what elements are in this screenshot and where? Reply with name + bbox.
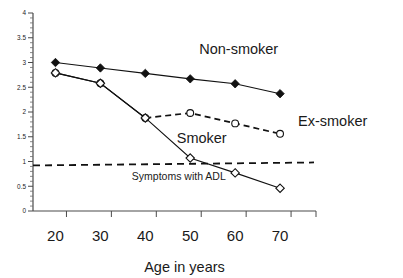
y-tick-label: 3 <box>22 59 26 66</box>
x-tick-label: 70 <box>272 227 289 244</box>
x-tick-label: 40 <box>137 227 154 244</box>
annotation-symptoms-with-adl: Symptoms with ADL <box>132 170 226 182</box>
marker-open-circle <box>187 110 194 117</box>
y-tick-label: 3.5 <box>17 34 26 41</box>
x-tick-label: 60 <box>227 227 244 244</box>
annotation-non-smoker: Non-smoker <box>199 41 278 57</box>
chart-figure: 00.511.522.533.54 203040506070 Non-smoke… <box>0 0 403 278</box>
x-tick-label: 30 <box>92 227 109 244</box>
y-tick-label: 4 <box>22 9 26 16</box>
line-chart-svg: 00.511.522.533.54 203040506070 Non-smoke… <box>0 0 403 278</box>
y-tick-label: 2.5 <box>17 84 26 91</box>
marker-open-circle <box>277 130 284 137</box>
marker-open-circle <box>232 120 239 127</box>
y-tick-label: 1 <box>22 158 26 165</box>
y-tick-label: 0.5 <box>17 183 26 190</box>
x-tick-label: 50 <box>182 227 199 244</box>
y-tick-label: 0 <box>22 207 26 214</box>
annotation-smoker: Smoker <box>177 130 227 146</box>
y-tick-label: 1.5 <box>17 133 26 140</box>
y-tick-label: 2 <box>22 108 26 115</box>
x-tick-label: 20 <box>47 227 64 244</box>
annotation-ex-smoker: Ex-smoker <box>298 113 367 129</box>
x-axis-title: Age in years <box>144 259 225 275</box>
